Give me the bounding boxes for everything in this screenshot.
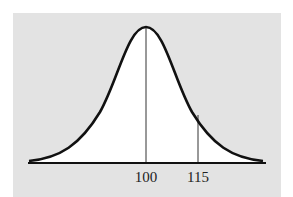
tick-label-marked: 115 [187,170,209,185]
tick-label-mean: 100 [135,170,158,185]
normal-curve-chart [0,0,293,197]
